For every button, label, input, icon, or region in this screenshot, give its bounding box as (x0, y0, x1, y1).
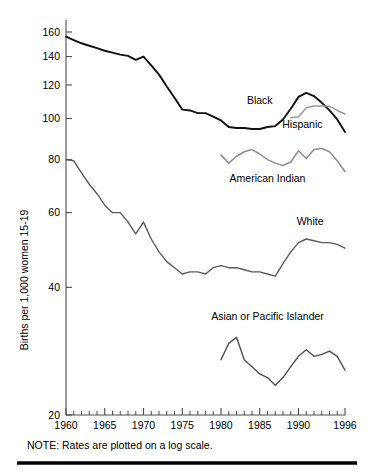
y-tick-label-160: 160 (42, 26, 60, 38)
series-label-white: White (297, 215, 324, 227)
series-label-asian-or-pacific-islander: Asian or Pacific Islander (211, 310, 324, 322)
y-tick-label-120: 120 (42, 79, 60, 91)
y-axis-group: 16014012010080604020 (42, 20, 72, 421)
series-line-american-indian (221, 148, 345, 171)
y-tick-marks (66, 32, 72, 415)
y-axis-title: Births per 1,000 women 15-19 (18, 210, 30, 351)
x-tick-label-1990: 1990 (287, 419, 311, 431)
x-tick-label-1965: 1965 (93, 419, 117, 431)
x-tick-labels: 19601965197019751980198519901996 (54, 419, 357, 431)
y-tick-label-60: 60 (48, 206, 60, 218)
x-tick-label-1960: 1960 (54, 419, 78, 431)
y-tick-label-100: 100 (42, 112, 60, 124)
chart-note: NOTE: Rates are plotted on a log scale. (27, 439, 213, 451)
series-label-hispanic: Hispanic (282, 118, 322, 130)
y-tick-labels: 16014012010080604020 (42, 26, 60, 421)
series-line-hispanic (291, 106, 345, 118)
series-lines (66, 37, 345, 386)
x-tick-label-1980: 1980 (209, 419, 233, 431)
series-label-black: Black (247, 94, 273, 106)
y-tick-label-80: 80 (48, 153, 60, 165)
x-tick-label-1996: 1996 (333, 419, 357, 431)
x-axis-group: 19601965197019751980198519901996 (54, 408, 357, 431)
chart-canvas: 16014012010080604020 1960196519701975198… (0, 0, 373, 476)
series-label-american-indian: American Indian (230, 172, 306, 184)
x-tick-label-1975: 1975 (171, 419, 195, 431)
y-tick-label-140: 140 (42, 50, 60, 62)
series-line-asian-or-pacific-islander (221, 337, 345, 385)
x-tick-label-1985: 1985 (248, 419, 272, 431)
x-tick-marks (66, 408, 345, 415)
x-tick-label-1970: 1970 (132, 419, 156, 431)
teen-birth-rate-chart: 16014012010080604020 1960196519701975198… (0, 0, 373, 476)
y-tick-label-40: 40 (48, 281, 60, 293)
